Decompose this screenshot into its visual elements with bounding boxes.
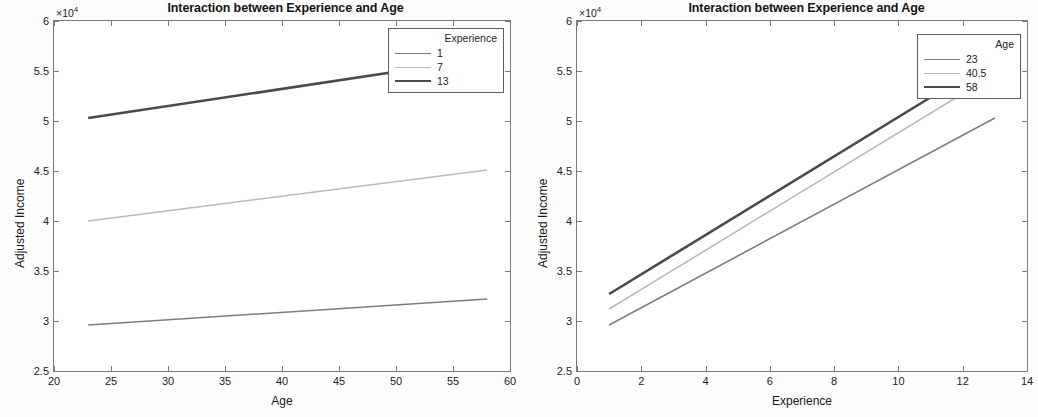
- x-tick-mark: [111, 366, 112, 371]
- y-tick-label: 6: [566, 15, 572, 27]
- legend-line-swatch: [924, 59, 960, 60]
- y-tick-label: 3: [43, 315, 49, 327]
- legend-item[interactable]: 40.5: [924, 66, 1014, 80]
- x-tick-mark: [453, 366, 454, 371]
- legend-line-swatch: [395, 53, 431, 54]
- legend-item[interactable]: 13: [395, 74, 497, 88]
- y-axis-multiplier-left: ×104: [56, 5, 78, 19]
- legend-item[interactable]: 23: [924, 52, 1014, 66]
- x-tick-mark: [834, 21, 835, 26]
- x-tick-mark: [54, 366, 55, 371]
- x-tick-mark: [510, 366, 511, 371]
- x-tick-label: 25: [105, 375, 117, 387]
- legend-item[interactable]: 1: [395, 46, 497, 60]
- x-tick-label: 6: [767, 375, 773, 387]
- y-tick-label: 5: [43, 115, 49, 127]
- multiplier-exponent: 4: [74, 5, 78, 14]
- y-tick-mark: [54, 321, 59, 322]
- x-tick-mark: [339, 21, 340, 26]
- x-tick-mark: [963, 366, 964, 371]
- y-axis-multiplier-right: ×104: [579, 5, 601, 19]
- x-axis-label-right: Experience: [576, 394, 1028, 408]
- x-tick-label: 10: [892, 375, 904, 387]
- plot-area-left: Experience 1713 2.533.544.555.5620253035…: [53, 20, 511, 372]
- legend-entries-right: 2340.558: [924, 52, 1014, 94]
- x-tick-mark: [706, 21, 707, 26]
- y-tick-mark: [505, 271, 510, 272]
- x-tick-mark: [641, 21, 642, 26]
- x-tick-mark: [641, 366, 642, 371]
- x-tick-mark: [111, 21, 112, 26]
- series-line: [88, 170, 487, 221]
- legend-item[interactable]: 58: [924, 80, 1014, 94]
- x-tick-mark: [577, 366, 578, 371]
- legend-item-label: 58: [966, 81, 978, 94]
- x-tick-mark: [770, 366, 771, 371]
- series-line: [88, 299, 487, 325]
- y-tick-label: 4.5: [557, 165, 572, 177]
- y-tick-mark: [1022, 71, 1027, 72]
- x-tick-mark: [282, 366, 283, 371]
- legend-item-label: 40.5: [966, 67, 986, 80]
- legend-item[interactable]: 7: [395, 60, 497, 74]
- legend-title-left: Experience: [395, 32, 497, 45]
- y-tick-mark: [54, 271, 59, 272]
- x-tick-label: 60: [504, 375, 516, 387]
- x-tick-mark: [396, 21, 397, 26]
- y-tick-label: 5.5: [34, 65, 49, 77]
- legend-line-swatch: [924, 73, 960, 74]
- x-tick-mark: [577, 21, 578, 26]
- x-tick-mark: [396, 366, 397, 371]
- y-tick-mark: [577, 71, 582, 72]
- x-tick-label: 20: [48, 375, 60, 387]
- y-tick-mark: [1022, 121, 1027, 122]
- x-tick-mark: [225, 21, 226, 26]
- x-tick-mark: [453, 21, 454, 26]
- x-tick-mark: [339, 366, 340, 371]
- x-tick-label: 45: [333, 375, 345, 387]
- x-axis-label-left: Age: [53, 394, 511, 408]
- x-tick-mark: [898, 21, 899, 26]
- y-tick-label: 5: [566, 115, 572, 127]
- figure-canvas: Interaction between Experience and Age ×…: [0, 0, 1038, 417]
- y-tick-mark: [1022, 371, 1027, 372]
- legend-right: Age 2340.558: [917, 34, 1021, 99]
- y-tick-label: 4: [43, 215, 49, 227]
- y-tick-mark: [1022, 321, 1027, 322]
- x-tick-label: 2: [638, 375, 644, 387]
- y-tick-mark: [577, 121, 582, 122]
- y-tick-mark: [505, 371, 510, 372]
- y-tick-mark: [54, 371, 59, 372]
- x-tick-mark: [770, 21, 771, 26]
- legend-item-label: 7: [437, 61, 443, 74]
- x-tick-mark: [834, 366, 835, 371]
- x-tick-mark: [225, 366, 226, 371]
- multiplier-exponent: 4: [597, 5, 601, 14]
- x-tick-mark: [706, 366, 707, 371]
- y-tick-label: 2.5: [557, 365, 572, 377]
- legend-item-label: 23: [966, 53, 978, 66]
- y-tick-mark: [577, 221, 582, 222]
- y-tick-mark: [577, 321, 582, 322]
- y-tick-mark: [505, 221, 510, 222]
- legend-item-label: 1: [437, 47, 443, 60]
- y-tick-mark: [54, 221, 59, 222]
- x-tick-label: 50: [390, 375, 402, 387]
- y-tick-mark: [577, 171, 582, 172]
- y-tick-mark: [505, 71, 510, 72]
- y-tick-label: 4: [566, 215, 572, 227]
- x-tick-label: 4: [703, 375, 709, 387]
- chart-panel-left: Interaction between Experience and Age ×…: [0, 0, 519, 417]
- x-tick-mark: [54, 21, 55, 26]
- chart-panel-right: Interaction between Experience and Age ×…: [519, 0, 1038, 417]
- y-tick-label: 4.5: [34, 165, 49, 177]
- x-tick-mark: [510, 21, 511, 26]
- y-tick-label: 5.5: [557, 65, 572, 77]
- legend-item-label: 13: [437, 75, 449, 88]
- x-tick-mark: [168, 366, 169, 371]
- multiplier-base: ×10: [56, 7, 74, 19]
- x-tick-label: 8: [831, 375, 837, 387]
- x-tick-mark: [1027, 366, 1028, 371]
- y-tick-label: 3.5: [34, 265, 49, 277]
- x-tick-label: 40: [276, 375, 288, 387]
